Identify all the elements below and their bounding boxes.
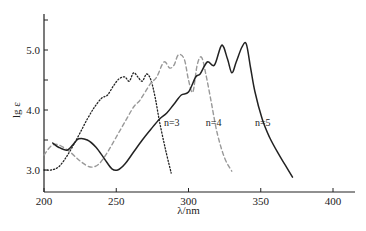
series-group xyxy=(44,43,293,178)
series-line-n4 xyxy=(44,54,232,171)
series-line-n3 xyxy=(44,73,171,173)
y-tick-label: 3.0 xyxy=(26,164,40,176)
uv-absorption-chart: 2002503003504003.04.05.0λ/nmlg ε n=3n=4n… xyxy=(0,0,366,231)
x-tick-label: 200 xyxy=(36,195,53,207)
x-axis-title: λ/nm xyxy=(177,204,200,216)
y-axis-title: lg ε xyxy=(10,102,22,118)
series-label-n4: n=4 xyxy=(206,117,222,128)
x-tick-label: 250 xyxy=(108,195,125,207)
y-tick-label: 5.0 xyxy=(26,44,40,56)
x-tick-label: 350 xyxy=(253,195,270,207)
annotations: n=3n=4n=5 xyxy=(164,117,271,128)
y-tick-label: 4.0 xyxy=(26,104,40,116)
series-line-n5 xyxy=(53,43,293,178)
series-label-n3: n=3 xyxy=(164,117,180,128)
x-tick-label: 400 xyxy=(325,195,342,207)
series-label-n5: n=5 xyxy=(255,117,271,128)
axes: 2002503003504003.04.05.0λ/nmlg ε xyxy=(10,14,355,216)
